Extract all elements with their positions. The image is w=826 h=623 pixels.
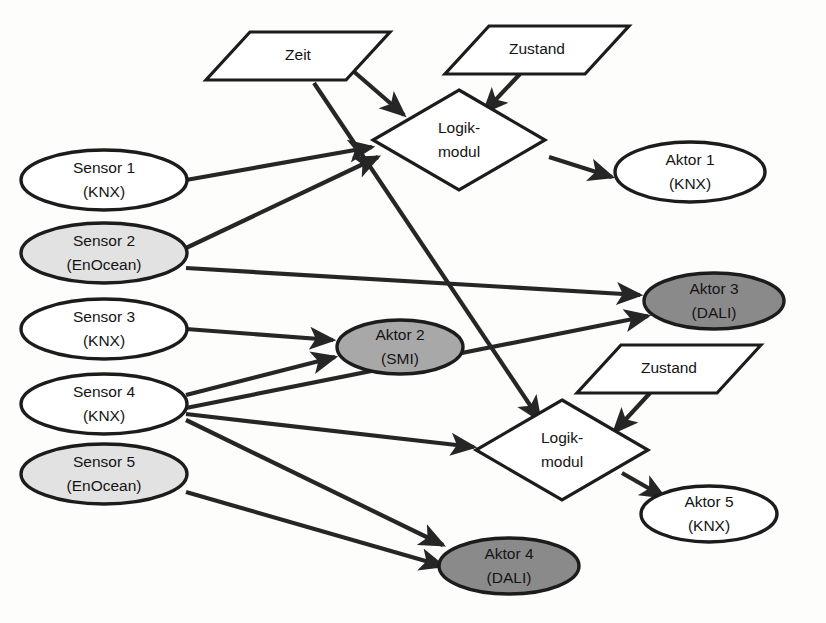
node-zustand2[interactable]: Zustand xyxy=(577,345,761,393)
aktor4-label-line2: (DALI) xyxy=(487,569,532,586)
e-logik2-aktor5 xyxy=(622,473,664,497)
zeit1-label-line1: Zeit xyxy=(285,46,312,63)
node-sensor5[interactable]: Sensor 5(EnOcean) xyxy=(21,444,187,504)
logik2-label-line2: modul xyxy=(541,453,583,470)
node-sensor2[interactable]: Sensor 2(EnOcean) xyxy=(21,223,187,283)
zustand1-label-line1: Zustand xyxy=(509,40,565,57)
node-sensor1[interactable]: Sensor 1(KNX) xyxy=(21,150,187,210)
aktor2-label-line1: Aktor 2 xyxy=(375,326,424,343)
diagram-svg: ZeitZustandLogik-modulZustandLogik-modul… xyxy=(0,0,826,623)
node-logik2[interactable]: Logik-modul xyxy=(476,400,648,500)
sensor1-label-line1: Sensor 1 xyxy=(73,159,135,176)
e-zustand2-logik2 xyxy=(614,393,650,432)
zustand2-label-line1: Zustand xyxy=(641,359,697,376)
e-logik1-aktor1 xyxy=(549,157,612,177)
sensor1-label-line2: (KNX) xyxy=(83,183,125,200)
e-sensor2-aktor3 xyxy=(186,268,640,295)
node-aktor3[interactable]: Aktor 3(DALI) xyxy=(644,273,784,329)
sensor3-label-line1: Sensor 3 xyxy=(73,308,135,325)
aktor5-label-line1: Aktor 5 xyxy=(684,493,733,510)
node-aktor5[interactable]: Aktor 5(KNX) xyxy=(641,486,777,542)
aktor4-label-line1: Aktor 4 xyxy=(484,545,533,562)
sensor2-label-line1: Sensor 2 xyxy=(73,232,135,249)
shape-diamond xyxy=(373,90,545,190)
sensor3-label-line2: (KNX) xyxy=(83,332,125,349)
node-zeit1[interactable]: Zeit xyxy=(206,32,390,80)
sensor2-label-line2: (EnOcean) xyxy=(67,256,142,273)
diagram-canvas: ZeitZustandLogik-modulZustandLogik-modul… xyxy=(0,0,826,623)
logik1-label-line2: modul xyxy=(438,143,480,160)
node-sensor3[interactable]: Sensor 3(KNX) xyxy=(21,299,187,359)
node-aktor1[interactable]: Aktor 1(KNX) xyxy=(615,142,765,202)
shape-diamond xyxy=(476,400,648,500)
aktor2-label-line2: (SMI) xyxy=(381,350,419,367)
node-logik1[interactable]: Logik-modul xyxy=(373,90,545,190)
e-sensor2-logik1 xyxy=(186,157,378,248)
aktor5-label-line2: (KNX) xyxy=(688,517,730,534)
sensor5-label-line1: Sensor 5 xyxy=(73,453,135,470)
sensor4-label-line1: Sensor 4 xyxy=(73,383,135,400)
logik1-label-line1: Logik- xyxy=(438,119,480,136)
aktor1-label-line1: Aktor 1 xyxy=(665,151,714,168)
e-sensor4-aktor2 xyxy=(186,357,335,395)
aktor1-label-line2: (KNX) xyxy=(669,175,711,192)
logik2-label-line1: Logik- xyxy=(541,429,583,446)
node-aktor2[interactable]: Aktor 2(SMI) xyxy=(337,320,463,374)
sensor5-label-line2: (EnOcean) xyxy=(67,477,142,494)
node-zustand1[interactable]: Zustand xyxy=(445,26,629,74)
node-sensor4[interactable]: Sensor 4(KNX) xyxy=(21,374,187,434)
e-zeit1-logik1 xyxy=(352,70,404,115)
sensor4-label-line2: (KNX) xyxy=(83,407,125,424)
aktor3-label-line2: (DALI) xyxy=(692,304,737,321)
aktor3-label-line1: Aktor 3 xyxy=(689,280,738,297)
e-sensor5-aktor4 xyxy=(186,492,443,566)
e-sensor3-aktor2 xyxy=(186,329,333,340)
node-aktor4[interactable]: Aktor 4(DALI) xyxy=(439,538,579,594)
